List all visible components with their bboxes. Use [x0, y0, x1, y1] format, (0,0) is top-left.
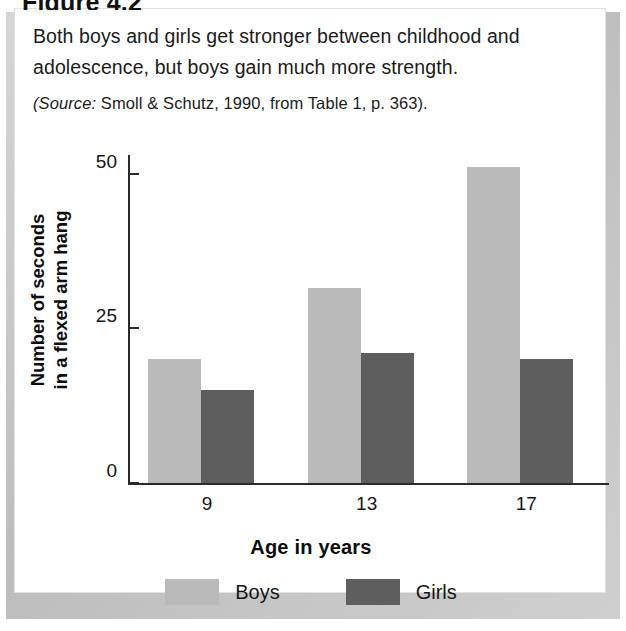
y-axis-title: Number of seconds in a flexed arm hang — [26, 190, 72, 410]
bar-girls-age-13 — [361, 353, 414, 483]
bar-boys-age-9 — [148, 359, 201, 483]
bar-chart: Number of seconds in a flexed arm hang 0… — [15, 9, 607, 594]
legend-item-girls: Girls — [346, 579, 457, 605]
legend-label-boys: Boys — [235, 581, 279, 604]
y-tick-label-25: 25 — [55, 305, 117, 327]
bar-girls-age-17 — [520, 359, 573, 483]
figure-panel: Both boys and girls get stronger between… — [14, 8, 606, 593]
legend-label-girls: Girls — [416, 581, 457, 604]
bar-girls-age-9 — [201, 390, 254, 483]
legend-swatch-boys — [165, 579, 219, 605]
x-tick-label-13: 13 — [327, 493, 407, 515]
figure-root: Figure 4.2 Both boys and girls get stron… — [0, 0, 626, 631]
y-tick-label-0: 0 — [55, 460, 117, 482]
y-axis-title-line-2: in a flexed arm hang — [49, 190, 72, 410]
bar-boys-age-17 — [467, 167, 520, 483]
x-axis-line — [128, 483, 609, 485]
y-tick-label-50: 50 — [55, 151, 117, 173]
y-axis-title-line-1: Number of seconds — [26, 190, 49, 410]
x-tick-label-17: 17 — [486, 493, 566, 515]
legend-swatch-girls — [346, 579, 400, 605]
x-axis-title: Age in years — [15, 536, 607, 559]
bar-boys-age-13 — [308, 288, 361, 483]
legend-item-boys: Boys — [165, 579, 279, 605]
bars-layer — [130, 155, 609, 483]
chart-legend: BoysGirls — [15, 579, 607, 605]
x-tick-label-9: 9 — [167, 493, 247, 515]
figure-heading: Figure 4.2 — [22, 0, 142, 10]
